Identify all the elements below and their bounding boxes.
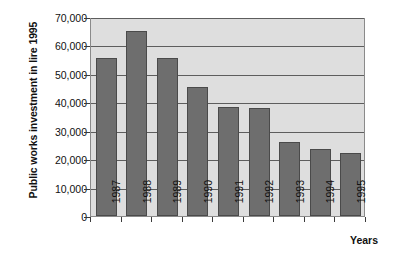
x-tick-mark — [273, 217, 274, 222]
x-tick-mark — [182, 217, 183, 222]
y-tick-mark — [84, 103, 90, 104]
x-tick-mark — [365, 217, 366, 222]
y-tick-mark — [84, 160, 90, 161]
y-tick-label: 0 — [27, 211, 87, 223]
y-tick-mark — [84, 75, 90, 76]
y-tick-label: 10,000 — [27, 183, 87, 195]
y-tick-mark — [84, 46, 90, 47]
x-tick-mark — [243, 217, 244, 222]
y-tick-label: 70,000 — [27, 12, 87, 24]
x-axis-title: Years — [350, 234, 378, 246]
y-tick-mark — [84, 18, 90, 19]
y-tick-mark — [84, 189, 90, 190]
y-tick-label: 30,000 — [27, 126, 87, 138]
y-tick-label: 40,000 — [27, 97, 87, 109]
y-tick-mark — [84, 132, 90, 133]
x-tick-mark — [121, 217, 122, 222]
x-tick-mark — [90, 217, 91, 222]
x-tick-mark — [334, 217, 335, 222]
x-tick-mark — [151, 217, 152, 222]
y-tick-label: 20,000 — [27, 154, 87, 166]
y-tick-label: 50,000 — [27, 69, 87, 81]
x-tick-mark — [212, 217, 213, 222]
bar-chart-figure: Public works investment in lire 1995 010… — [0, 0, 396, 265]
x-tick-mark — [304, 217, 305, 222]
y-tick-label: 60,000 — [27, 40, 87, 52]
